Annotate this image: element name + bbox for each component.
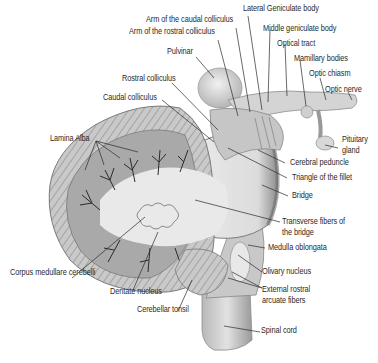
label-cerebral-peduncle: Cerebral peduncle [290,158,349,168]
label-pituitary: Pituitary [342,135,368,145]
label-mamillary-bodies: Mamillary bodies [294,54,348,64]
label-dentate-nucleus: Dentate nucleus [110,287,162,297]
label-triangle-of-the-fillet: Triangle of the fillet [292,173,352,183]
label-optic-nerve: Optic nerve [325,85,362,95]
label-olivary-nucleus: Olivary nucleus [262,267,311,277]
label-optical-tract: Optical tract [277,39,315,49]
label-external-rostral-1: External rostral [262,285,310,295]
anatomy-diagram: Lateral Geniculate body Arm of the cauda… [0,0,378,363]
label-pulvinar: Pulvinar [167,47,193,57]
label-transverse-fibers-2: the bridge [282,228,314,238]
label-lamina-alba: Lamina Alba [50,134,90,144]
label-spinal-cord: Spinal cord [261,326,297,336]
label-cerebellar-tonsil: Cerebellar tonsil [137,305,189,315]
label-lateral-geniculate-body: Lateral Geniculate body [243,4,319,14]
label-bridge: Bridge [292,191,313,201]
label-medulla-oblongata: Medulla oblongata [268,243,327,253]
label-middle-geniculate-body: Middle geniculate body [263,24,336,34]
label-transverse-fibers-1: Transverse fibers of [282,217,345,227]
label-optic-chiasm: Optic chiasm [309,69,351,79]
label-gland: gland [342,146,360,156]
label-corpus-medullare-cerebelli: Corpus medullare cerebelli [10,268,95,278]
label-external-rostral-2: arcuate fibers [262,296,305,306]
label-caudal-colliculus: Caudal colliculus [103,93,157,103]
label-rostral-colliculus: Rostral colliculus [122,74,176,84]
label-arm-rostral-colliculus: Arm of the rostral colliculus [129,27,215,37]
label-arm-caudal-colliculus: Arm of the caudal colliculus [146,15,233,25]
